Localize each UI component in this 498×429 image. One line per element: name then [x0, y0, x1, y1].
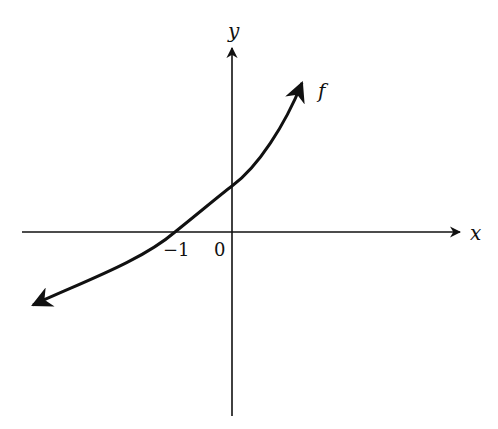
- graph-canvas: y x f −1 0: [0, 0, 498, 429]
- x-axis-label: x: [470, 221, 481, 245]
- curve-label-f: f: [316, 79, 329, 103]
- tick-label-neg-one: −1: [163, 239, 190, 260]
- tick-label-origin: 0: [214, 239, 225, 260]
- curve-f: [33, 83, 302, 305]
- y-axis-label: y: [227, 19, 240, 43]
